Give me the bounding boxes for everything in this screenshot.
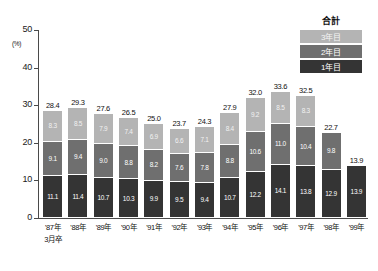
- bar-segment-value: 7.4: [124, 128, 132, 135]
- bar-segment-2年目[interactable]: 9.0: [94, 144, 113, 178]
- bar-segment-1年目[interactable]: 11.4: [68, 175, 87, 218]
- bar-total-label: 24.3: [198, 117, 211, 126]
- bar-segment-value: 8.8: [124, 159, 132, 166]
- bar-column[interactable]: 13.913.9: [347, 166, 366, 218]
- bar-segment-value: 6.6: [175, 137, 183, 144]
- y-axis-unit-label: (%): [12, 40, 21, 47]
- bar-column[interactable]: 7.99.010.727.6: [94, 114, 113, 218]
- bar-total-label: 26.5: [122, 108, 135, 117]
- bar-segment-2年目[interactable]: 9.4: [68, 140, 87, 175]
- legend-item-year3[interactable]: 3年目: [300, 30, 362, 43]
- bar-segment-1年目[interactable]: 10.7: [220, 178, 239, 218]
- bar-total-label: 29.3: [71, 98, 84, 107]
- bar-column[interactable]: 8.310.413.832.5: [296, 96, 315, 218]
- bar-column[interactable]: 6.98.29.925.0: [144, 124, 163, 218]
- bar-segment-value: 9.5: [175, 196, 183, 203]
- bar-segment-3年目[interactable]: 8.4: [220, 113, 239, 145]
- bar-column[interactable]: 8.59.411.429.3: [68, 108, 87, 218]
- bar-segment-2年目[interactable]: 11.0: [271, 124, 290, 165]
- bar-total-label: 25.0: [147, 114, 160, 123]
- bar-segment-value: 10.4: [300, 143, 311, 150]
- y-axis-tick-label: 0: [0, 213, 32, 223]
- bar-segment-value: 8.4: [226, 125, 234, 132]
- bar-segment-value: 9.1: [49, 155, 57, 162]
- bar-total-label: 13.9: [350, 156, 363, 165]
- y-axis-tick-label-text: 30: [22, 100, 32, 109]
- bar-column[interactable]: 8.511.014.133.6: [271, 92, 290, 218]
- bar-segment-value: 10.3: [123, 195, 134, 202]
- bar-segment-2年目[interactable]: 8.2: [144, 150, 163, 181]
- legend-item-year1[interactable]: 1年目: [300, 60, 362, 73]
- y-axis-tick-label-text: 0: [27, 213, 32, 222]
- bar-segment-1年目[interactable]: 14.1: [271, 165, 290, 218]
- bar-segment-value: 11.0: [275, 140, 286, 147]
- bar-segment-value: 12.9: [325, 190, 336, 197]
- bar-total-label: 32.0: [248, 88, 261, 97]
- bar-segment-value: 6.9: [150, 133, 158, 140]
- bar-segment-3年目[interactable]: 8.5: [68, 108, 87, 140]
- bar-segment-value: 7.1: [200, 136, 208, 143]
- bar-segment-3年目[interactable]: 8.3: [43, 111, 62, 142]
- bar-segment-1年目[interactable]: 9.5: [170, 182, 189, 218]
- y-axis-tick-label-text: 40: [22, 63, 32, 72]
- y-axis-tick-label-text: 50: [22, 25, 32, 34]
- bar-segment-3年目[interactable]: 7.1: [195, 127, 214, 154]
- bar-segment-1年目[interactable]: 9.4: [195, 183, 214, 218]
- bar-segment-3年目[interactable]: 9.2: [246, 98, 265, 133]
- bar-segment-3年目[interactable]: 8.5: [271, 92, 290, 124]
- bar-segment-3年目[interactable]: 7.9: [94, 114, 113, 144]
- bar-segment-2年目[interactable]: 10.6: [246, 132, 265, 172]
- bar-segment-value: 9.4: [200, 196, 208, 203]
- legend-title: 合計: [300, 14, 362, 27]
- bar-segment-value: 8.8: [226, 157, 234, 164]
- bar-segment-3年目[interactable]: 6.9: [144, 124, 163, 150]
- bar-segment-2年目[interactable]: 8.8: [220, 145, 239, 178]
- bar-segment-1年目[interactable]: 13.9: [347, 166, 366, 218]
- bar-column[interactable]: 8.48.810.727.9: [220, 113, 239, 218]
- bar-segment-value: 10.6: [249, 148, 260, 155]
- bar-segment-2年目[interactable]: 10.4: [296, 127, 315, 166]
- y-axis-tick-label-text: 20: [22, 138, 32, 147]
- bar-segment-value: 9.4: [74, 153, 82, 160]
- bar-segment-value: 7.6: [175, 164, 183, 171]
- bar-segment-value: 9.9: [150, 195, 158, 202]
- bar-segment-3年目[interactable]: 8.3: [296, 96, 315, 127]
- legend-label-year1: 1年目: [321, 61, 341, 72]
- bar-total-label: 28.4: [46, 101, 59, 110]
- bar-segment-2年目[interactable]: 7.8: [195, 153, 214, 182]
- bar-segment-3年目[interactable]: 7.4: [119, 118, 138, 146]
- bar-segment-1年目[interactable]: 13.8: [296, 166, 315, 218]
- bar-segment-1年目[interactable]: 9.9: [144, 181, 163, 218]
- bar-column[interactable]: 8.39.111.128.4: [43, 111, 62, 218]
- bar-segment-2年目[interactable]: 9.8: [322, 133, 341, 170]
- bar-total-label: 22.7: [324, 123, 337, 132]
- bar-segment-2年目[interactable]: 7.6: [170, 154, 189, 183]
- y-axis-tick: [34, 218, 39, 219]
- legend-item-year2[interactable]: 2年目: [300, 45, 362, 58]
- y-axis-tick-label-text: 10: [22, 175, 32, 184]
- bar-segment-3年目[interactable]: 6.6: [170, 129, 189, 154]
- bar-segment-2年目[interactable]: 9.1: [43, 142, 62, 176]
- bar-segment-value: 10.7: [224, 194, 235, 201]
- bar-segment-value: 11.4: [72, 193, 83, 200]
- y-axis-tick-label: 50: [0, 25, 32, 35]
- bar-segment-1年目[interactable]: 12.2: [246, 172, 265, 218]
- bar-segment-value: 14.1: [275, 187, 286, 194]
- x-axis-label-note: 3月卒: [38, 233, 68, 244]
- bar-segment-1年目[interactable]: 10.3: [119, 179, 138, 218]
- bar-segment-1年目[interactable]: 10.7: [94, 178, 113, 218]
- bar-segment-value: 13.8: [300, 188, 311, 195]
- bar-segment-value: 9.8: [327, 147, 335, 154]
- bar-column[interactable]: 9.812.922.7: [322, 133, 341, 218]
- x-axis-line: [38, 218, 368, 219]
- bar-segment-2年目[interactable]: 8.8: [119, 146, 138, 179]
- bar-column[interactable]: 7.17.89.424.3: [195, 127, 214, 218]
- bar-column[interactable]: 6.67.69.523.7: [170, 129, 189, 218]
- legend-label-year2: 2年目: [321, 46, 341, 57]
- bar-segment-1年目[interactable]: 11.1: [43, 176, 62, 218]
- bar-segment-1年目[interactable]: 12.9: [322, 170, 341, 219]
- bar-column[interactable]: 7.48.810.326.5: [119, 118, 138, 218]
- bar-segment-value: 12.2: [249, 191, 260, 198]
- bar-segment-value: 8.3: [302, 107, 310, 114]
- bar-column[interactable]: 9.210.612.232.0: [246, 98, 265, 218]
